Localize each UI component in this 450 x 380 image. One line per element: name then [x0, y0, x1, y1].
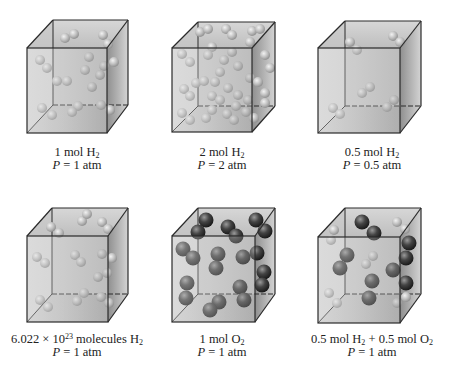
oxygen-atom [355, 215, 370, 230]
oxygen-atom [399, 251, 414, 266]
hydrogen-atom [109, 57, 119, 67]
hydrogen-atom [395, 37, 405, 47]
cube-p6 [318, 208, 421, 323]
hydrogen-atom [69, 29, 79, 39]
hydrogen-atom [260, 98, 270, 108]
cube-p3 [318, 21, 421, 133]
hydrogen-atom [401, 292, 411, 302]
caption-pressure: P = 1 atm [2, 346, 152, 359]
hydrogen-atom [103, 224, 113, 234]
caption-2-mol-h2: 2 mol H2 P = 2 atm [147, 146, 297, 172]
caption-1-mol-o2: 1 mol O2 P = 1 atm [147, 333, 297, 359]
gas-cubes-figure [0, 0, 450, 380]
oxygen-atom [257, 265, 272, 280]
oxygen-atom [255, 278, 270, 293]
caption-avogadro-molecules-h2: 6.022 × 1023 molecules H2 P = 1 atm [2, 333, 152, 359]
caption-half-mol-h2: 0.5 mol H2 P = 0.5 atm [297, 146, 447, 172]
hydrogen-atom [392, 217, 402, 227]
hydrogen-atom [253, 77, 263, 87]
oxygen-atom [402, 236, 417, 251]
oxygen-atom [258, 224, 273, 239]
hydrogen-atom [260, 50, 270, 60]
caption-pressure: P = 1 atm [297, 346, 447, 359]
hydrogen-atom [203, 24, 213, 34]
hydrogen-atom [60, 33, 70, 43]
hydrogen-atom [260, 88, 270, 98]
hydrogen-atom [329, 225, 339, 235]
oxygen-atom [399, 276, 414, 291]
caption-pressure: P = 1 atm [147, 346, 297, 359]
hydrogen-atom [82, 209, 92, 219]
hydrogen-atom [98, 30, 108, 40]
hydrogen-atom [265, 63, 275, 73]
cube-p4 [27, 208, 128, 322]
hydrogen-atom [227, 30, 237, 40]
caption-mixture-h2-o2: 0.5 mol H2 + 0.5 mol O2 P = 1 atm [297, 333, 447, 359]
caption-pressure: P = 1 atm [2, 159, 152, 172]
cube-p5 [172, 208, 275, 322]
caption-pressure: P = 0.5 atm [297, 159, 447, 172]
caption-1-mol-h2: 1 mol H2 P = 1 atm [2, 146, 152, 172]
hydrogen-atom [255, 24, 265, 34]
hydrogen-atom [46, 222, 56, 232]
hydrogen-atom [345, 37, 355, 47]
caption-pressure: P = 2 atm [147, 159, 297, 172]
cube-p1 [27, 20, 128, 133]
cube-p2 [172, 22, 275, 132]
